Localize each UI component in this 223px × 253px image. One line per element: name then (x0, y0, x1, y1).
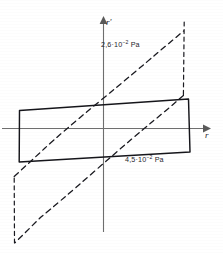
figure-root: 2,6·10−2 Pa 4,5·10−2 Pa r' r (0, 0, 223, 253)
annotation-upper-pressure: 2,6·10−2 Pa (101, 41, 140, 48)
hysteresis-plot (0, 0, 223, 253)
dashed-upper-branch (15, 96, 183, 243)
annotation-upper-unit: Pa (131, 40, 140, 49)
annotation-lower-exponent: −2 (146, 154, 152, 160)
solid-parallelogram (19, 99, 190, 162)
annotation-lower-mantissa: 4,5 (125, 155, 135, 164)
annotation-lower-unit: Pa (155, 155, 164, 164)
annotation-upper-exponent: −2 (122, 39, 128, 45)
dashed-loop-group (14, 22, 184, 243)
x-axis-label: r (205, 131, 209, 140)
dashed-right-riser (183, 22, 184, 96)
solid-loop-group (19, 99, 190, 162)
annotation-upper-mantissa: 2,6 (101, 40, 111, 49)
y-axis-label: r' (106, 18, 111, 27)
annotation-lower-pressure: 4,5·10−2 Pa (125, 156, 164, 163)
